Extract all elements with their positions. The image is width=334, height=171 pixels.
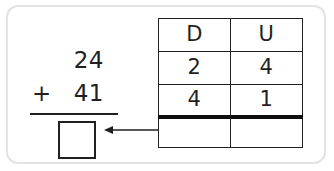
result-units-cell[interactable] — [231, 117, 303, 148]
addend1-units-cell: 4 — [231, 51, 303, 84]
table-row: 2 4 — [159, 51, 303, 84]
addend2-units-cell: 1 — [231, 84, 303, 117]
table-header-row: D U — [159, 19, 303, 52]
header-cell-units: U — [231, 19, 303, 52]
plus-operator: + — [32, 78, 52, 108]
result-tens-cell[interactable] — [159, 117, 231, 148]
worksheet-canvas: 24 + 41 D U 2 4 4 1 — [0, 0, 334, 171]
addend2-tens-cell: 4 — [159, 84, 231, 117]
sum-horizontal-rule — [30, 113, 118, 115]
addend-row-second: + 41 — [26, 78, 126, 108]
table-row: 4 1 — [159, 84, 303, 117]
vertical-addition-problem: 24 + 41 — [26, 45, 126, 155]
header-cell-tens: D — [159, 19, 231, 52]
table-result-row — [159, 117, 303, 148]
addend-row-first: 24 — [26, 45, 126, 75]
addend-second-value: 41 — [74, 78, 104, 108]
left-arrow-icon — [103, 123, 161, 137]
place-value-table: D U 2 4 4 1 — [158, 18, 303, 148]
addend-first-value: 24 — [74, 45, 104, 75]
addend1-tens-cell: 2 — [159, 51, 231, 84]
answer-input-box[interactable] — [58, 121, 96, 159]
